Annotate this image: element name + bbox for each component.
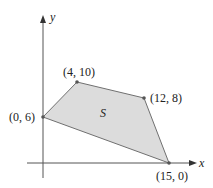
vertex-label-0-6: (0, 6) (9, 110, 35, 124)
y-axis-label: y (49, 10, 56, 24)
vertex-12-8 (142, 96, 146, 100)
vertex-0-6 (41, 115, 45, 119)
diagram-svg: y x S (0, 6) (4, 10) (12, 8) (15, 0) (0, 0, 213, 188)
vertex-15-0 (167, 161, 171, 165)
vertex-4-10 (75, 80, 79, 84)
x-axis-arrow-icon (189, 160, 197, 166)
feasible-region-diagram: y x S (0, 6) (4, 10) (12, 8) (15, 0) (0, 0, 213, 188)
x-axis-label: x (198, 156, 205, 170)
region-label: S (100, 106, 106, 120)
vertex-label-15-0: (15, 0) (156, 169, 188, 183)
vertex-label-4-10: (4, 10) (63, 65, 95, 79)
vertex-label-12-8: (12, 8) (150, 91, 182, 105)
y-axis-arrow-icon (40, 15, 46, 23)
